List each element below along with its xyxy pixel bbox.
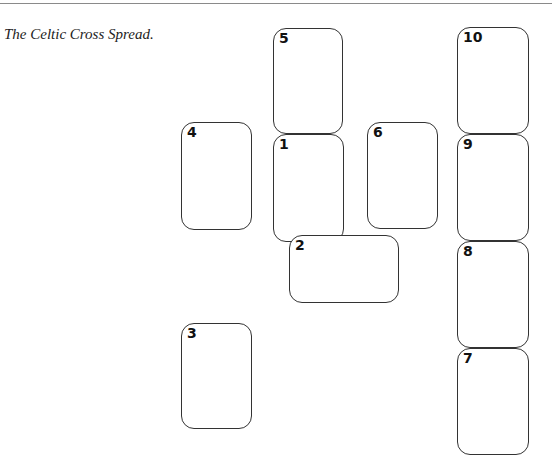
card-7: 7 [457, 348, 529, 455]
figure-caption: The Celtic Cross Spread. [4, 26, 154, 43]
card-9: 9 [457, 134, 529, 241]
card-number: 4 [187, 124, 197, 140]
card-number: 8 [463, 243, 473, 259]
card-3: 3 [181, 323, 252, 429]
card-number: 5 [279, 30, 289, 46]
card-number: 7 [463, 350, 473, 366]
card-6: 6 [367, 122, 438, 229]
card-number: 6 [373, 124, 383, 140]
card-number: 3 [187, 325, 197, 341]
card-2: 2 [289, 235, 399, 303]
card-number: 10 [463, 29, 482, 45]
card-number: 9 [463, 136, 473, 152]
card-number: 2 [295, 237, 305, 253]
card-number: 1 [279, 136, 289, 152]
card-8: 8 [457, 241, 529, 348]
card-10: 10 [457, 27, 529, 134]
card-5: 5 [273, 28, 343, 134]
card-4: 4 [181, 122, 252, 230]
page-header-rule [0, 3, 552, 4]
card-1: 1 [273, 134, 344, 242]
